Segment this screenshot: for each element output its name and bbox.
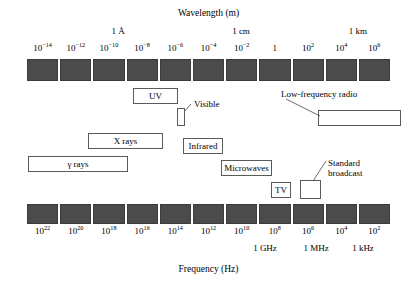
frequency-band-segment — [127, 204, 158, 224]
top-tick-4: 10−6 — [168, 44, 184, 53]
top-tick-6: 10−2 — [234, 44, 250, 53]
bottom-tick-6: 1010 — [234, 227, 249, 236]
band-box-low-frequency-radio[interactable] — [318, 110, 401, 126]
top-tick-7: 1 — [273, 44, 278, 53]
band-box-visible[interactable] — [177, 108, 185, 126]
band-box-gamma-rays[interactable]: γ rays — [28, 156, 128, 172]
wavelength-spectrum-bar — [27, 59, 390, 81]
frequency-band-segment — [160, 204, 191, 224]
band-box-ultraviolet[interactable]: UV — [133, 88, 178, 104]
wavelength-band-segment — [326, 59, 357, 81]
wavelength-band-segment — [160, 59, 191, 81]
top-tick-0: 10−14 — [33, 44, 52, 53]
wavelength-band-segment — [127, 59, 158, 81]
frequency-band-segment — [93, 204, 124, 224]
top-named-tick-angstrom: 1 Å — [111, 26, 124, 36]
bottom-tick-5: 1012 — [201, 227, 216, 236]
bottom-tick-2: 1018 — [101, 227, 116, 236]
leader-line-standard-broadcast — [313, 161, 326, 181]
wavelength-band-segment — [226, 59, 257, 81]
wavelength-band-segment — [293, 59, 324, 81]
band-box-television[interactable]: TV — [271, 182, 291, 198]
top-named-tick-kilometer: 1 km — [349, 26, 367, 36]
bottom-axis-title: Frequency (Hz) — [0, 264, 417, 274]
top-tick-1: 10−12 — [66, 44, 85, 53]
bottom-tick-0: 1022 — [35, 227, 50, 236]
leader-line-low-frequency-radio — [286, 99, 320, 116]
frequency-band-segment — [60, 204, 91, 224]
wavelength-band-segment — [93, 59, 124, 81]
top-tick-5: 10−4 — [201, 44, 217, 53]
wavelength-band-segment — [193, 59, 224, 81]
wavelength-band-segment — [60, 59, 91, 81]
band-box-standard-broadcast[interactable] — [300, 180, 321, 199]
frequency-spectrum-bar — [27, 204, 390, 224]
bottom-tick-8: 106 — [302, 227, 314, 236]
frequency-band-segment — [27, 204, 58, 224]
frequency-band-segment — [193, 204, 224, 224]
leader-label-low-frequency-radio: Low-frequency radio — [281, 89, 357, 99]
frequency-band-segment — [226, 204, 257, 224]
band-box-x-rays[interactable]: X rays — [88, 133, 163, 149]
wavelength-band-segment — [259, 59, 290, 81]
top-tick-10: 106 — [368, 44, 380, 53]
bottom-named-tick-megahertz: 1 MHz — [303, 243, 328, 253]
frequency-band-segment — [259, 204, 290, 224]
band-box-microwaves[interactable]: Microwaves — [221, 160, 272, 176]
leader-label-standard-line1: Standard — [328, 158, 360, 168]
wavelength-band-segment — [359, 59, 390, 81]
top-named-tick-centimeter: 1 cm — [232, 26, 250, 36]
bottom-tick-3: 1016 — [135, 227, 150, 236]
bottom-named-tick-kilohertz: 1 kHz — [352, 243, 374, 253]
frequency-band-segment — [293, 204, 324, 224]
bottom-tick-7: 108 — [269, 227, 281, 236]
bottom-named-tick-gigahertz: 1 GHz — [253, 243, 277, 253]
bottom-tick-10: 102 — [368, 227, 380, 236]
top-tick-3: 10−8 — [134, 44, 150, 53]
frequency-band-segment — [326, 204, 357, 224]
bottom-tick-4: 1014 — [168, 227, 183, 236]
top-axis-title: Wavelength (m) — [0, 8, 417, 18]
wavelength-band-segment — [27, 59, 58, 81]
leader-label-standard-line2: broadcast — [328, 168, 362, 178]
top-tick-8: 102 — [302, 44, 314, 53]
leader-label-standard-broadcast: Standard broadcast — [328, 158, 362, 178]
leader-label-visible: Visible — [194, 99, 219, 109]
top-tick-2: 10−10 — [100, 44, 119, 53]
electromagnetic-spectrum-figure: Wavelength (m) 1 Å 1 cm 1 km 10−1410−121… — [0, 0, 417, 286]
frequency-band-segment — [359, 204, 390, 224]
band-box-infrared[interactable]: Infrared — [183, 138, 223, 154]
top-tick-9: 104 — [335, 44, 347, 53]
leader-line-visible — [184, 104, 191, 112]
bottom-tick-1: 1020 — [68, 227, 83, 236]
bottom-tick-9: 104 — [335, 227, 347, 236]
